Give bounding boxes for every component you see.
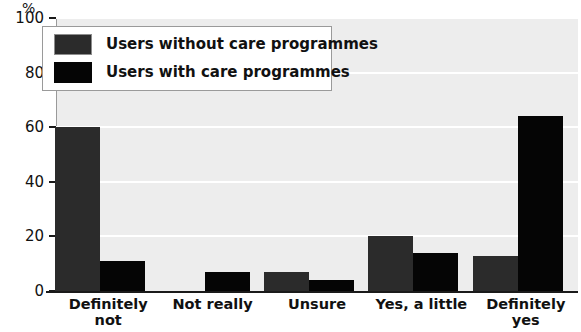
bar-with-care-programmes xyxy=(100,261,145,291)
y-axis-tick-mark xyxy=(49,17,56,19)
bar-without-care-programmes xyxy=(368,236,413,291)
legend-label-without: Users without care programmes xyxy=(106,35,378,53)
y-axis-tick-label: 0 xyxy=(0,282,44,300)
gridline xyxy=(56,181,578,183)
bar-with-care-programmes xyxy=(309,280,354,291)
black-swatch-icon xyxy=(54,62,92,83)
bar-with-care-programmes xyxy=(518,116,563,291)
y-axis-tick-label: 100 xyxy=(0,9,44,27)
bar-chart-figure: % 020406080100 Definitely notNot reallyU… xyxy=(0,0,581,332)
legend-label-with: Users with care programmes xyxy=(106,63,350,81)
x-axis-label: Definitely not xyxy=(56,296,160,328)
chart-title-cropped xyxy=(0,0,581,4)
y-axis-tick-label: 60 xyxy=(0,118,44,136)
x-axis-line xyxy=(46,291,578,293)
legend-entry-with: Users with care programmes xyxy=(54,60,350,84)
y-axis-tick-label: 80 xyxy=(0,64,44,82)
x-axis-label: Definitely yes xyxy=(474,296,578,328)
x-axis-label: Not really xyxy=(160,296,264,312)
gridline xyxy=(56,235,578,237)
x-axis-label: Unsure xyxy=(265,296,369,312)
y-axis-tick-label: 40 xyxy=(0,173,44,191)
legend-entry-without: Users without care programmes xyxy=(54,32,378,56)
bar-with-care-programmes xyxy=(413,253,458,291)
dark-gray-swatch-icon xyxy=(54,34,92,55)
bar-without-care-programmes xyxy=(473,256,518,291)
bar-without-care-programmes xyxy=(264,272,309,291)
x-axis-label: Yes, a little xyxy=(369,296,473,312)
gridline xyxy=(56,126,578,128)
bar-with-care-programmes xyxy=(205,272,250,291)
y-axis-tick-label: 20 xyxy=(0,227,44,245)
chart-legend: Users without care programmes Users with… xyxy=(42,26,332,91)
gridline xyxy=(56,17,578,19)
bar-without-care-programmes xyxy=(55,127,100,291)
